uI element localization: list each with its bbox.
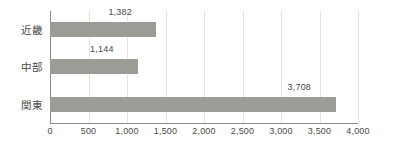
plot-area: 1,3821,1443,708 bbox=[50, 11, 358, 123]
x-tick-label: 1,500 bbox=[154, 126, 178, 136]
category-label: 関東 bbox=[2, 97, 42, 112]
bar-value-label: 1,382 bbox=[108, 7, 132, 17]
bar bbox=[50, 59, 138, 74]
x-tick-label: 3,500 bbox=[308, 126, 332, 136]
bar bbox=[50, 97, 336, 112]
x-tick-label: 500 bbox=[81, 126, 97, 136]
x-tick-label: 3,000 bbox=[269, 126, 293, 136]
x-tick-label: 2,500 bbox=[231, 126, 255, 136]
category-label: 近畿 bbox=[2, 22, 42, 37]
bar-chart: 1,3821,1443,708 近畿中部関東05001,0001,5002,00… bbox=[0, 0, 394, 146]
bar-value-label: 3,708 bbox=[288, 82, 312, 92]
bar bbox=[50, 22, 156, 37]
x-tick-label: 4,000 bbox=[346, 126, 370, 136]
bar-row: 1,144 bbox=[50, 48, 358, 85]
bar-row: 1,382 bbox=[50, 11, 358, 48]
x-axis-line bbox=[50, 123, 358, 124]
category-label: 中部 bbox=[2, 59, 42, 74]
x-tick-label: 1,000 bbox=[115, 126, 139, 136]
gridline bbox=[358, 11, 359, 123]
x-tick-label: 0 bbox=[47, 126, 52, 136]
x-tick-label: 2,000 bbox=[192, 126, 216, 136]
bar-row: 3,708 bbox=[50, 86, 358, 123]
bar-value-label: 1,144 bbox=[90, 44, 114, 54]
